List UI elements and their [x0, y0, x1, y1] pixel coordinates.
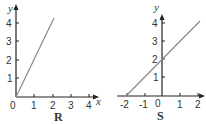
s-x-tick-0: 0 — [155, 98, 161, 109]
panel-r: y 4 3 2 1 0 1 2 3 4 x R — [6, 2, 101, 124]
r-x-tick-3: 3 — [68, 100, 74, 111]
r-y-axis-arrow-icon — [14, 4, 19, 10]
s-y-tick-1: 1 — [153, 72, 159, 83]
r-x-tick-0: 0 — [10, 100, 16, 111]
r-y-tick-1: 1 — [7, 73, 13, 84]
r-x-axis-label: x — [95, 95, 101, 107]
r-x-tick-4: 4 — [86, 100, 92, 111]
figure-canvas: y 4 3 2 1 0 1 2 3 4 x R y 4 3 — [0, 0, 206, 124]
s-y-axis-label: y — [153, 1, 159, 13]
s-y-axis-arrow-icon — [160, 14, 165, 20]
s-x-tick-neg1: -1 — [139, 99, 148, 110]
r-y-tick-3: 3 — [6, 36, 12, 47]
r-series-line — [16, 18, 54, 97]
s-y-tick-4: 4 — [152, 18, 158, 29]
s-x-tick-1: 1 — [177, 99, 183, 110]
s-x-tick-neg2: -2 — [120, 99, 129, 110]
s-panel-label: S — [157, 109, 164, 123]
s-x-tick-2: 2 — [195, 99, 201, 110]
panel-s: y 4 3 2 1 -2 -1 0 1 2 S — [117, 1, 205, 123]
s-series-line — [126, 21, 200, 96]
s-x-axis-arrow-icon — [199, 94, 205, 99]
r-panel-label: R — [54, 110, 63, 124]
s-y-tick-3: 3 — [152, 36, 158, 47]
r-x-tick-1: 1 — [31, 100, 37, 111]
r-y-axis-label: y — [7, 2, 13, 14]
r-y-tick-2: 2 — [6, 55, 12, 66]
r-y-tick-4: 4 — [6, 18, 12, 29]
s-y-tick-2: 2 — [152, 54, 158, 65]
